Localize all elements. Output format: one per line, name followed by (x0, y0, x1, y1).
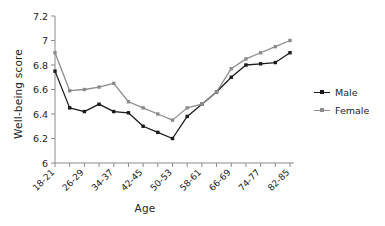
x-axis-tick-label: 34-37 (90, 167, 116, 193)
data-point-male (127, 111, 130, 114)
data-point-male (274, 61, 277, 64)
data-point-male (156, 131, 159, 134)
data-point-female (112, 82, 115, 85)
data-point-female (141, 106, 144, 109)
x-axis-tick-label: 18-21 (31, 167, 57, 193)
data-point-male (288, 51, 291, 54)
x-axis-tick-label: 50-53 (148, 167, 174, 193)
data-point-female (171, 118, 174, 121)
data-point-female (127, 100, 130, 103)
data-point-female (244, 57, 247, 60)
x-axis-tick-label: 58-61 (178, 167, 204, 193)
y-axis-tick-label: 6.8 (33, 60, 48, 71)
data-point-male (171, 137, 174, 140)
legend-item-female: Female (314, 103, 369, 118)
data-point-male (83, 110, 86, 113)
y-axis-tick-label: 6.2 (33, 133, 48, 144)
y-axis-tick-label: 7 (42, 35, 48, 46)
x-axis-tick-label: 26-29 (60, 167, 86, 193)
data-point-female (288, 39, 291, 42)
data-point-female (185, 106, 188, 109)
data-point-female (274, 45, 277, 48)
data-point-male (185, 115, 188, 118)
data-point-male (244, 63, 247, 66)
data-point-female (97, 85, 100, 88)
data-point-female (200, 103, 203, 106)
data-point-male (259, 62, 262, 65)
data-point-male (230, 76, 233, 79)
y-axis-tick-label: 6 (42, 158, 48, 169)
y-axis-tick-label: 6.6 (33, 84, 48, 95)
legend-label-female: Female (335, 105, 369, 116)
wellbeing-by-age-line-chart: 66.26.46.66.877.218-2126-2934-3742-4550-… (0, 0, 385, 226)
data-point-female (156, 112, 159, 115)
legend-label-male: Male (335, 87, 358, 98)
data-point-male (53, 69, 56, 72)
data-point-female (83, 88, 86, 91)
chart-legend: Male Female (314, 85, 369, 121)
data-point-male (141, 125, 144, 128)
data-point-male (68, 106, 71, 109)
x-axis-tick-label: 74-77 (236, 167, 262, 193)
y-axis-tick-label: 6.4 (33, 109, 48, 120)
y-axis-title: Well-being score (12, 39, 24, 149)
series-line-male (55, 53, 290, 139)
x-axis-tick-label: 66-69 (207, 167, 233, 193)
data-point-male (112, 110, 115, 113)
data-point-female (215, 90, 218, 93)
data-point-male (97, 103, 100, 106)
legend-marker-male-icon (314, 88, 330, 98)
data-point-female (259, 51, 262, 54)
data-point-female (68, 89, 71, 92)
x-axis-tick-label: 42-45 (119, 167, 145, 193)
data-point-female (230, 67, 233, 70)
x-axis-title: Age (0, 202, 290, 214)
y-axis-tick-label: 7.2 (33, 11, 48, 22)
legend-marker-female-icon (314, 106, 330, 116)
legend-item-male: Male (314, 85, 369, 100)
data-point-female (53, 51, 56, 54)
x-axis-tick-label: 82-85 (266, 167, 292, 193)
